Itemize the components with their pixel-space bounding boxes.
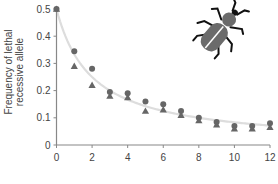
x-tick-label: 2 (89, 152, 95, 163)
data-points (53, 5, 274, 131)
y-tick-label: 0.5 (37, 4, 51, 15)
triangle-point (71, 63, 78, 69)
circle-point (142, 98, 148, 104)
circle-point (71, 48, 77, 54)
x-tick-label: 12 (264, 152, 276, 163)
y-tick-label: 0.1 (37, 112, 51, 123)
y-tick-label: 0.3 (37, 58, 51, 69)
y-axis-title: Frequency of lethalrecessive allele (3, 29, 25, 114)
svg-text:recessive allele: recessive allele (14, 37, 25, 106)
chart: 02468101200.10.20.30.40.5 Frequency of l… (0, 0, 278, 184)
triangle-point (160, 106, 167, 112)
x-tick-label: 10 (229, 152, 241, 163)
triangle-point (142, 107, 149, 113)
triangle-point (88, 82, 95, 88)
beetle-icon (187, 0, 258, 64)
x-tick-label: 6 (160, 152, 166, 163)
y-tick-label: 0.4 (37, 31, 51, 42)
svg-text:Frequency of lethal: Frequency of lethal (3, 29, 14, 114)
x-tick-label: 8 (196, 152, 202, 163)
y-tick-label: 0.2 (37, 85, 51, 96)
y-tick-label: 0 (45, 140, 51, 151)
x-tick-label: 0 (54, 152, 60, 163)
axes: 02468101200.10.20.30.40.5 (37, 4, 276, 164)
x-tick-label: 4 (125, 152, 131, 163)
circle-point (89, 66, 95, 72)
